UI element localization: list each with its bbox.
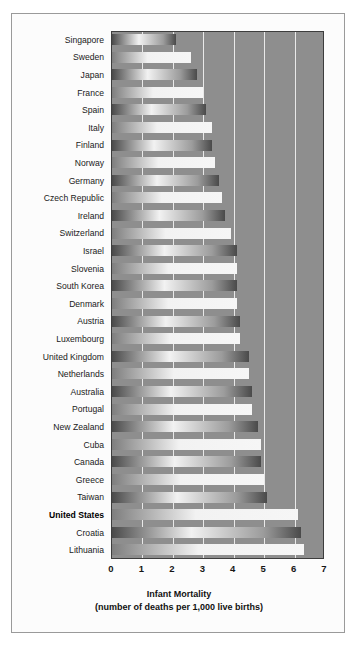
- bar[interactable]: [112, 175, 219, 186]
- bar-row[interactable]: [112, 278, 323, 296]
- category-label-ireland: Ireland: [8, 211, 104, 221]
- category-label-united-kingdom: United Kingdom: [8, 352, 104, 362]
- bar[interactable]: [112, 263, 237, 274]
- bar[interactable]: [112, 351, 249, 362]
- x-axis-caption: Infant Mortality (number of deaths per 1…: [32, 588, 326, 613]
- bar-row[interactable]: [112, 490, 323, 508]
- bar[interactable]: [112, 439, 261, 450]
- bar[interactable]: [112, 87, 203, 98]
- category-label-australia: Australia: [8, 387, 104, 397]
- category-label-switzerland: Switzerland: [8, 228, 104, 238]
- bar-row[interactable]: [112, 349, 323, 367]
- bar[interactable]: [112, 69, 197, 80]
- category-label-taiwan: Taiwan: [8, 492, 104, 502]
- bar-row[interactable]: [112, 243, 323, 261]
- category-label-sweden: Sweden: [8, 52, 104, 62]
- bar[interactable]: [112, 34, 176, 45]
- category-label-new-zealand: New Zealand: [8, 422, 104, 432]
- bar-row[interactable]: [112, 384, 323, 402]
- bar[interactable]: [112, 527, 301, 538]
- bar-row[interactable]: [112, 208, 323, 226]
- bars-group: [112, 32, 323, 558]
- x-axis-tick-labels: 01234567: [111, 563, 324, 577]
- bar[interactable]: [112, 122, 212, 133]
- bar-row[interactable]: [112, 50, 323, 68]
- bar-row[interactable]: [112, 296, 323, 314]
- category-label-south-korea: South Korea: [8, 281, 104, 291]
- x-tick-7: 7: [321, 563, 326, 574]
- bar-row[interactable]: [112, 32, 323, 50]
- bar-row[interactable]: [112, 331, 323, 349]
- x-tick-6: 6: [291, 563, 296, 574]
- bar-row[interactable]: [112, 525, 323, 543]
- bar[interactable]: [112, 298, 237, 309]
- bar[interactable]: [112, 492, 267, 503]
- bar-row[interactable]: [112, 85, 323, 103]
- bar[interactable]: [112, 544, 304, 555]
- bar-row[interactable]: [112, 314, 323, 332]
- x-tick-3: 3: [200, 563, 205, 574]
- bar[interactable]: [112, 140, 212, 151]
- bar-row[interactable]: [112, 402, 323, 420]
- bar-row[interactable]: [112, 102, 323, 120]
- bar-row[interactable]: [112, 419, 323, 437]
- bar-row[interactable]: [112, 173, 323, 191]
- chart-page: SingaporeSwedenJapanFranceSpainItalyFinl…: [0, 0, 357, 654]
- infant-mortality-bar-chart: SingaporeSwedenJapanFranceSpainItalyFinl…: [12, 14, 346, 634]
- category-label-spain: Spain: [8, 105, 104, 115]
- x-tick-5: 5: [260, 563, 265, 574]
- x-tick-2: 2: [169, 563, 174, 574]
- bar[interactable]: [112, 192, 222, 203]
- bar-row[interactable]: [112, 454, 323, 472]
- category-label-singapore: Singapore: [8, 35, 104, 45]
- bar-row[interactable]: [112, 261, 323, 279]
- category-label-japan: Japan: [8, 70, 104, 80]
- x-tick-4: 4: [230, 563, 235, 574]
- bar[interactable]: [112, 52, 191, 63]
- category-label-austria: Austria: [8, 316, 104, 326]
- bar[interactable]: [112, 386, 252, 397]
- bar[interactable]: [112, 316, 240, 327]
- bar-row[interactable]: [112, 190, 323, 208]
- bar[interactable]: [112, 280, 237, 291]
- category-label-czech-republic: Czech Republic: [8, 193, 104, 203]
- category-label-israel: Israel: [8, 246, 104, 256]
- bar[interactable]: [112, 368, 249, 379]
- bar[interactable]: [112, 210, 225, 221]
- category-label-portugal: Portugal: [8, 404, 104, 414]
- bar-row[interactable]: [112, 67, 323, 85]
- bar-row[interactable]: [112, 437, 323, 455]
- bar-row[interactable]: [112, 155, 323, 173]
- category-label-france: France: [8, 88, 104, 98]
- chart-panel: SingaporeSwedenJapanFranceSpainItalyFinl…: [11, 13, 345, 633]
- plot-area: [111, 31, 324, 559]
- bar-row[interactable]: [112, 472, 323, 490]
- bar[interactable]: [112, 509, 298, 520]
- bar-row[interactable]: [112, 542, 323, 559]
- bar[interactable]: [112, 333, 240, 344]
- category-label-finland: Finland: [8, 140, 104, 150]
- bar[interactable]: [112, 421, 258, 432]
- category-label-cuba: Cuba: [8, 440, 104, 450]
- bar[interactable]: [112, 104, 206, 115]
- bar[interactable]: [112, 157, 215, 168]
- bar-row[interactable]: [112, 226, 323, 244]
- bar[interactable]: [112, 404, 252, 415]
- category-label-lithuania: Lithuania: [8, 545, 104, 555]
- bar-row[interactable]: [112, 507, 323, 525]
- bar-row[interactable]: [112, 366, 323, 384]
- category-label-greece: Greece: [8, 475, 104, 485]
- category-label-canada: Canada: [8, 457, 104, 467]
- bar[interactable]: [112, 228, 231, 239]
- category-label-croatia: Croatia: [8, 528, 104, 538]
- category-label-luxembourg: Luxembourg: [8, 334, 104, 344]
- bar-row[interactable]: [112, 138, 323, 156]
- bar-row[interactable]: [112, 120, 323, 138]
- bar[interactable]: [112, 245, 237, 256]
- category-label-netherlands: Netherlands: [8, 369, 104, 379]
- bar[interactable]: [112, 474, 264, 485]
- category-label-slovenia: Slovenia: [8, 264, 104, 274]
- x-tick-1: 1: [139, 563, 144, 574]
- category-label-united-states: United States: [8, 510, 104, 520]
- bar[interactable]: [112, 456, 261, 467]
